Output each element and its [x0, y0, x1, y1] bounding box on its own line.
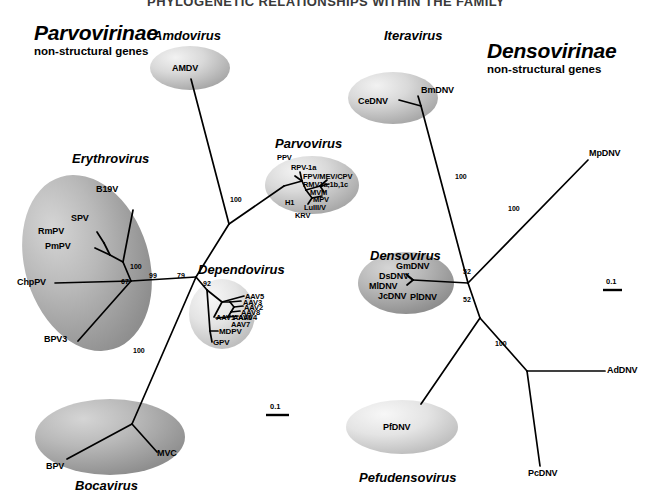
- scale-label-left: 0.1: [270, 402, 280, 411]
- taxon-bmdnv: BmDNV: [421, 85, 454, 95]
- bootstrap-left-boca-100: 100: [133, 347, 145, 354]
- taxon-rpv1a: RPV-1a: [291, 163, 316, 172]
- taxon-h1: H1: [285, 198, 294, 207]
- taxon-mpdnv: MpDNV: [589, 148, 621, 158]
- subfamily-densovirinae-subtitle: non-structural genes: [487, 63, 617, 75]
- genus-label-amdovirus: Amdovirus: [153, 28, 221, 43]
- bootstrap-right-mpdnv-100: 100: [508, 205, 520, 212]
- genus-label-bocavirus: Bocavirus: [75, 478, 138, 493]
- bootstrap-left-amdv-node: 100: [230, 196, 242, 203]
- taxon-pldnv: PlDNV: [410, 292, 437, 302]
- taxon-jcdnv: JcDNV: [378, 291, 407, 301]
- bootstrap-left-dep-92: 92: [203, 280, 211, 287]
- scale-label-right: 0.1: [606, 277, 616, 286]
- taxon-rmpv: RmPV: [38, 226, 64, 236]
- taxon-chppv: ChpPV: [17, 277, 46, 287]
- taxon-pfdnv: PfDNV: [383, 422, 411, 432]
- bootstrap-left-ery-67: 67: [121, 278, 129, 285]
- taxon-ppv: PPV: [277, 153, 292, 162]
- taxon-gmdnv: GmDNV: [396, 261, 430, 271]
- taxon-amdv: AMDV: [172, 63, 198, 73]
- taxon-bpv: BPV: [46, 461, 64, 471]
- subfamily-densovirinae-name: Densovirinae: [487, 40, 617, 62]
- taxon-dsdnv: DsDNV: [379, 271, 409, 281]
- taxon-b19v: B19V: [96, 184, 118, 194]
- subfamily-parvovirinae-subtitle: non-structural genes: [34, 45, 158, 57]
- taxon-mldnv: MlDNV: [369, 281, 398, 291]
- subfamily-parvovirinae-name: Parvovirinae: [34, 22, 158, 44]
- subfamily-parvovirinae: Parvovirinae non-structural genes: [34, 22, 158, 57]
- taxon-gpv: GPV: [213, 338, 230, 347]
- taxon-addnv: AdDNV: [607, 365, 638, 375]
- taxon-bpv3: BPV3: [44, 334, 67, 344]
- figure-canvas: PHYLOGENETIC RELATIONSHIPS WITHIN THE FA…: [0, 0, 652, 498]
- genus-label-dependovirus: Dependovirus: [198, 262, 285, 277]
- taxon-pmpv: PmPV: [45, 241, 71, 251]
- genus-label-erythrovirus: Erythrovirus: [72, 151, 149, 166]
- bootstrap-left-99: 99: [149, 272, 157, 279]
- genus-label-iteravirus: Iteravirus: [384, 28, 443, 43]
- bootstrap-left-79: 79: [177, 272, 185, 279]
- taxon-mdpv: MDPV: [219, 327, 242, 336]
- bootstrap-left-ery-inner: 100: [130, 263, 142, 270]
- bootstrap-right-ad-100: 100: [495, 340, 507, 347]
- bootstrap-right-52a: 52: [463, 268, 471, 275]
- blob-erythrovirus: [1, 159, 172, 367]
- bootstrap-right-itera-100: 100: [455, 173, 467, 180]
- subfamily-densovirinae: Densovirinae non-structural genes: [487, 40, 617, 75]
- genus-label-parvovirus: Parvovirus: [275, 136, 342, 151]
- taxon-pcdnv: PcDNV: [528, 468, 558, 478]
- taxon-mvc: MVC: [157, 448, 177, 458]
- taxon-spv: SPV: [71, 213, 89, 223]
- taxon-cednv: CeDNV: [358, 96, 388, 106]
- bootstrap-right-52b: 52: [463, 296, 471, 303]
- taxon-krv: KRV: [295, 211, 310, 220]
- genus-label-pefudensovirus: Pefudensovirus: [359, 470, 457, 485]
